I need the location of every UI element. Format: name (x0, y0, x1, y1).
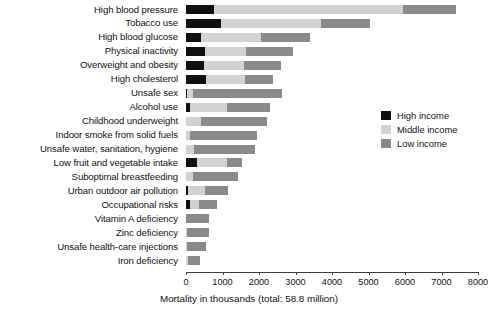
mortality-risk-factor-chart: High blood pressureTobacco useHigh blood… (0, 0, 498, 315)
category-label: Physical inactivity (105, 46, 178, 56)
bar-segment (186, 5, 214, 14)
legend: High income Middle income Low income (381, 108, 457, 150)
category-label: Childhood underweight (82, 116, 178, 126)
legend-swatch-low-income (381, 139, 391, 148)
category-label: High blood glucose (98, 32, 178, 42)
x-tick-label: 7000 (431, 277, 451, 287)
bar-segment (186, 75, 206, 84)
bar-segment (201, 117, 267, 126)
x-tick (369, 272, 370, 275)
legend-label-middle-income: Middle income (397, 124, 457, 135)
bar-segment (201, 33, 261, 42)
x-tick-label: 8000 (468, 277, 488, 287)
x-tick-label: 3000 (285, 277, 305, 287)
bar-segment (188, 186, 205, 195)
bar-segment (246, 47, 293, 56)
x-tick-label: 6000 (395, 277, 415, 287)
bar-segment (245, 75, 273, 84)
category-label: Indoor smoke from solid fuels (56, 130, 178, 140)
category-label: Low fruit and vegetable intake (54, 158, 178, 168)
bar-segment (197, 158, 227, 167)
category-label: Vitamin A deficiency (95, 214, 178, 224)
category-label: Overweight and obesity (80, 60, 178, 70)
category-label: Tobacco use (125, 18, 178, 28)
bar-segment (205, 47, 246, 56)
x-tick (186, 272, 187, 275)
x-tick (259, 272, 260, 275)
bar-segment (193, 89, 282, 98)
x-tick (478, 272, 479, 275)
bar-segment (186, 47, 205, 56)
category-label: Alcohol use (130, 102, 179, 112)
category-label: Iron deficiency (118, 256, 178, 266)
x-tick-label: 2000 (249, 277, 269, 287)
bar-segment (186, 33, 201, 42)
legend-swatch-middle-income (381, 125, 391, 134)
x-tick-label: 0 (183, 277, 188, 287)
category-label: Unsafe water, sanitation, hygiene (40, 144, 178, 154)
bar-segment (205, 186, 228, 195)
bar-segment (194, 145, 255, 154)
legend-label-high-income: High income (397, 110, 449, 121)
x-tick (405, 272, 406, 275)
bar-segment (204, 61, 244, 70)
bar-segment (227, 158, 242, 167)
bar-segment (206, 75, 244, 84)
bar-segment (186, 145, 194, 154)
bar-segment (186, 158, 197, 167)
bar-segment (199, 200, 217, 209)
bar-segment (321, 19, 370, 28)
category-label: Zinc deficiency (116, 228, 178, 238)
bar-segment (190, 131, 257, 140)
bar-segment (187, 242, 205, 251)
bar-segment (186, 214, 209, 223)
category-label: Unsafe health-care injections (57, 242, 178, 252)
legend-item-high-income: High income (381, 108, 457, 122)
x-tick-label: 4000 (322, 277, 342, 287)
bar-segment (190, 103, 227, 112)
x-tick (223, 272, 224, 275)
bar-segment (190, 200, 199, 209)
bar-segment (186, 117, 201, 126)
legend-item-low-income: Low income (381, 136, 457, 150)
category-label: Unsafe sex (131, 88, 178, 98)
category-label: Occupational risks (101, 200, 178, 210)
bar-segment (187, 228, 209, 237)
bar-segment (227, 103, 270, 112)
bar-segment (188, 256, 200, 265)
bar-segment (186, 19, 221, 28)
bar-segment (214, 5, 403, 14)
legend-label-low-income: Low income (397, 138, 447, 149)
category-label: Suboptimal breastfeeding (72, 172, 178, 182)
category-label: High blood pressure (94, 5, 178, 15)
x-axis-title: Mortality in thousands (total: 58.8 mill… (0, 293, 498, 304)
x-tick (442, 272, 443, 275)
category-label: Urban outdoor air pollution (68, 186, 178, 196)
bar-segment (261, 33, 310, 42)
bar-segment (221, 19, 320, 28)
x-tick-label: 1000 (212, 277, 232, 287)
legend-swatch-high-income (381, 111, 391, 120)
x-tick (296, 272, 297, 275)
bar-segment (186, 61, 204, 70)
legend-item-middle-income: Middle income (381, 122, 457, 136)
x-tick (332, 272, 333, 275)
bar-segment (244, 61, 281, 70)
bar-segment (403, 5, 456, 14)
bar-segment (193, 172, 239, 181)
x-tick-label: 5000 (358, 277, 378, 287)
category-label: High cholesterol (111, 74, 178, 84)
